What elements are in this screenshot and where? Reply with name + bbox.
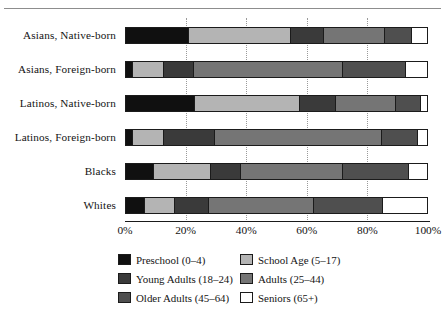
stacked-bar (125, 61, 428, 78)
x-axis-line (125, 221, 430, 222)
legend-swatch-young-adults (118, 273, 131, 284)
x-tick-label: 100% (415, 224, 442, 236)
legend-label-older-adults: Older Adults (45–64) (136, 292, 229, 304)
bar-segment (290, 28, 324, 43)
bar-row: Asians, Native-born (125, 27, 428, 44)
bar-segment (132, 130, 163, 145)
legend-label-seniors: Seniors (65+) (258, 292, 318, 304)
bar-row-label: Asians, Foreign-born (18, 63, 116, 75)
bar-segment (144, 198, 175, 213)
legend-swatch-seniors (240, 292, 253, 303)
bar-segment (420, 96, 427, 111)
legend-item-young-adults: Young Adults (18–24) (118, 273, 240, 285)
legend-item-older-adults: Older Adults (45–64) (118, 292, 240, 304)
stacked-bar (125, 27, 428, 44)
x-tick-label: 0% (117, 224, 132, 236)
legend-label-school-age: School Age (5–17) (258, 254, 340, 266)
bar-segment (313, 198, 382, 213)
bar-segment (193, 62, 342, 77)
x-axis-tick-labels: 0%20%40%60%80%100% (125, 224, 428, 242)
legend-swatch-preschool (118, 254, 131, 265)
bar-segment (126, 198, 144, 213)
bar-segment (342, 62, 405, 77)
bar-rows: Asians, Native-bornAsians, Foreign-bornL… (125, 18, 428, 222)
stacked-bar-chart: Asians, Native-bornAsians, Foreign-bornL… (0, 0, 445, 317)
bar-segment (411, 28, 427, 43)
x-tick-label: 20% (175, 224, 196, 236)
bar-row: Blacks (125, 163, 428, 180)
legend-swatch-adults (240, 273, 253, 284)
stacked-bar (125, 163, 428, 180)
bar-segment (417, 130, 427, 145)
bar-segment (188, 28, 290, 43)
bar-segment (240, 164, 342, 179)
bar-segment (299, 96, 336, 111)
bar-row: Asians, Foreign-born (125, 61, 428, 78)
legend-item-preschool: Preschool (0–4) (118, 254, 240, 266)
bar-segment (126, 164, 153, 179)
bar-segment (163, 62, 194, 77)
legend-item-school-age: School Age (5–17) (240, 254, 378, 266)
bar-segment (194, 96, 299, 111)
bar-segment (163, 130, 214, 145)
x-tick-label: 60% (296, 224, 317, 236)
bar-segment (208, 198, 313, 213)
legend-item-seniors: Seniors (65+) (240, 292, 378, 304)
plot-area: Asians, Native-bornAsians, Foreign-bornL… (125, 18, 428, 222)
bar-row-label: Latinos, Native-born (20, 97, 116, 109)
stacked-bar (125, 95, 428, 112)
legend-swatch-older-adults (118, 292, 131, 303)
bar-segment (210, 164, 241, 179)
legend-item-adults: Adults (25–44) (240, 273, 378, 285)
bar-segment (174, 198, 208, 213)
bar-row-label: Asians, Native-born (23, 29, 116, 41)
bar-segment (323, 28, 383, 43)
bar-segment (405, 62, 427, 77)
bar-segment (126, 28, 188, 43)
bar-segment (153, 164, 210, 179)
bar-row-label: Latinos, Foreign-born (15, 131, 116, 143)
bar-segment (382, 198, 427, 213)
bar-segment (214, 130, 381, 145)
top-divider-rule (4, 8, 441, 9)
bar-row-label: Whites (83, 199, 116, 211)
stacked-bar (125, 197, 428, 214)
bar-segment (395, 96, 420, 111)
x-tick-label: 40% (236, 224, 257, 236)
bar-segment (384, 28, 412, 43)
bar-segment (408, 164, 427, 179)
bar-segment (381, 130, 418, 145)
bar-row: Whites (125, 197, 428, 214)
stacked-bar (125, 129, 428, 146)
bar-row-label: Blacks (85, 165, 116, 177)
bar-segment (132, 62, 163, 77)
legend-label-preschool: Preschool (0–4) (136, 254, 205, 266)
x-tick-label: 80% (357, 224, 378, 236)
legend-swatch-school-age (240, 254, 253, 265)
legend-label-young-adults: Young Adults (18–24) (136, 273, 233, 285)
chart-legend: Preschool (0–4)School Age (5–17)Young Ad… (118, 250, 378, 307)
bar-segment (342, 164, 408, 179)
bar-segment (126, 96, 194, 111)
bar-row: Latinos, Native-born (125, 95, 428, 112)
bar-row: Latinos, Foreign-born (125, 129, 428, 146)
bar-segment (335, 96, 395, 111)
legend-label-adults: Adults (25–44) (258, 273, 324, 285)
